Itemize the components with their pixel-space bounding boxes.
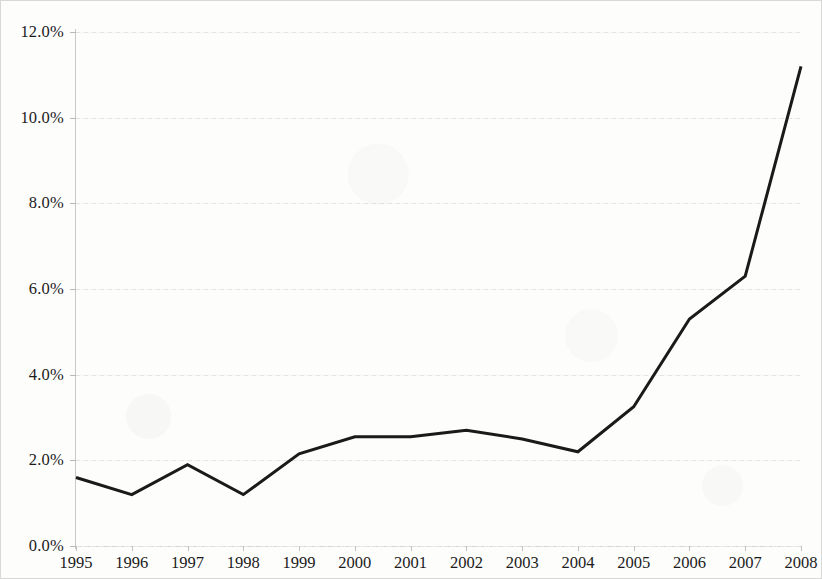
x-axis-tick <box>411 546 412 551</box>
x-axis-tick <box>355 546 356 551</box>
y-axis-tick <box>70 203 76 204</box>
y-axis-tick <box>70 375 76 376</box>
x-axis-tick-label: 1996 <box>115 553 148 573</box>
gridline-horizontal <box>76 289 801 290</box>
x-axis-tick-label: 2007 <box>729 553 762 573</box>
gridline-horizontal <box>76 546 801 547</box>
x-axis-tick <box>522 546 523 551</box>
x-axis-tick-label: 2003 <box>506 553 539 573</box>
y-axis-tick-label: 2.0% <box>29 450 64 470</box>
x-axis-tick <box>801 546 802 551</box>
y-axis-tick <box>70 118 76 119</box>
gridline-horizontal <box>76 460 801 461</box>
x-axis-tick-label: 2001 <box>394 553 427 573</box>
x-axis-tick-label: 2006 <box>673 553 706 573</box>
gridline-horizontal <box>76 375 801 376</box>
gridline-horizontal <box>76 118 801 119</box>
y-axis-tick-label: 6.0% <box>29 279 64 299</box>
x-axis-tick-label: 2008 <box>785 553 818 573</box>
x-axis-tick <box>745 546 746 551</box>
x-axis-tick-label: 2000 <box>338 553 371 573</box>
y-axis-tick-label: 4.0% <box>29 365 64 385</box>
x-axis-tick <box>132 546 133 551</box>
y-axis-tick <box>70 460 76 461</box>
x-axis-tick-label: 1995 <box>60 553 93 573</box>
plot-area <box>76 32 801 546</box>
y-axis-tick-label: 12.0% <box>20 22 64 42</box>
x-axis-tick-label: 2004 <box>561 553 594 573</box>
gridline-horizontal <box>76 32 801 33</box>
y-axis-labels: 0.0%2.0%4.0%6.0%8.0%10.0%12.0% <box>1 1 64 579</box>
x-axis-tick-label: 1998 <box>227 553 260 573</box>
x-axis-tick-label: 2002 <box>450 553 483 573</box>
x-axis-tick <box>188 546 189 551</box>
x-axis-tick <box>578 546 579 551</box>
x-axis-tick <box>634 546 635 551</box>
x-axis-tick-label: 1999 <box>283 553 316 573</box>
x-axis-tick-label: 2005 <box>617 553 650 573</box>
y-axis-tick-label: 8.0% <box>29 193 64 213</box>
x-axis-tick <box>689 546 690 551</box>
x-axis-tick <box>299 546 300 551</box>
y-axis-tick <box>70 32 76 33</box>
x-axis-tick <box>76 546 77 551</box>
y-axis-tick-label: 10.0% <box>20 108 64 128</box>
y-axis-tick <box>70 289 76 290</box>
x-axis-tick <box>243 546 244 551</box>
gridline-horizontal <box>76 203 801 204</box>
chart-figure: 0.0%2.0%4.0%6.0%8.0%10.0%12.0% 199519961… <box>0 0 822 579</box>
x-axis-tick <box>466 546 467 551</box>
x-axis-tick-label: 1997 <box>171 553 204 573</box>
